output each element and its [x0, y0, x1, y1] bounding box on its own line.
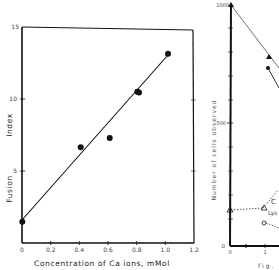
x-axis-label: Concentration of Ca ions, mMol: [34, 259, 170, 268]
regression-line: [22, 55, 168, 220]
data-point: [19, 219, 25, 225]
right-y-axis-label: Number of cells observed: [210, 100, 217, 201]
circle-marker: [266, 66, 270, 70]
data-point: [78, 144, 84, 150]
x-tick-0: 0: [20, 246, 24, 253]
y-axis-label-fusion: Fusion: [5, 175, 14, 203]
cell-count-chart: 1000 500 0 0 1 Number of cells observed …: [210, 2, 279, 270]
data-point: [165, 51, 171, 57]
right-y-tick-500: 500: [216, 120, 226, 126]
x-tick-0-2: 0.2: [46, 246, 56, 253]
right-x-tick-0: 0: [228, 249, 231, 255]
circle-series-line: [268, 68, 279, 88]
triangle-marker: [266, 54, 272, 59]
x-tick-0-4: 0.4: [75, 246, 85, 253]
open-circle-marker: [262, 221, 266, 225]
figure-canvas: 5 10 15 0 0.2 0.4 0.6 0.8 1.0 1.2 Concen…: [0, 0, 279, 270]
right-y-tick-0: 0: [222, 243, 226, 249]
x-tick-1-2: 1.2: [189, 246, 199, 253]
annotation-lys: Lys: [268, 209, 277, 217]
control-dotted-line: [231, 208, 263, 210]
left-right-border: [193, 30, 194, 243]
right-y-tick-1000: 1000: [216, 2, 229, 8]
x-tick-1-0: 1.0: [161, 246, 171, 253]
y-tick-10: 10: [9, 95, 17, 102]
y-tick-15: 15: [11, 23, 19, 30]
data-point: [107, 135, 113, 141]
open-triangle-marker: [261, 205, 267, 210]
right-x-tick-1: 1: [263, 249, 266, 255]
x-tick-0-6: 0.6: [103, 246, 113, 253]
triangle-series-line: [231, 5, 279, 68]
y-tick-5: 5: [13, 167, 17, 174]
y-axis-label-index: Index: [5, 113, 14, 137]
data-point: [136, 90, 142, 96]
right-y-axis: [230, 4, 231, 246]
x-tick-0-8: 0.8: [132, 246, 142, 253]
annotation-c: C: [271, 198, 276, 206]
fusion-index-chart: 5 10 15 0 0.2 0.4 0.6 0.8 1.0 1.2 Concen…: [5, 23, 199, 268]
left-top-border: [22, 27, 193, 30]
caption-fragment: fig. 2: [258, 262, 279, 270]
